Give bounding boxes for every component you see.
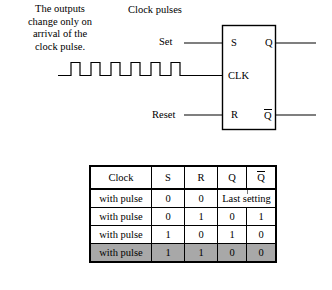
table-row: with pulse 0 0 Last setting [90, 189, 276, 208]
clock-pulse-train [58, 63, 223, 76]
cell-qbar: 1 [247, 208, 277, 226]
cell-qbar: 0 [247, 226, 277, 244]
r-pin-label: R [231, 109, 238, 120]
qbar-overbar-glyph: Q [264, 109, 272, 121]
cell-s: 0 [152, 189, 185, 208]
cell-s: 1 [152, 226, 185, 244]
cell-clock: with pulse [90, 189, 152, 208]
clock-waveform-path [58, 63, 223, 76]
cell-r: 1 [185, 244, 218, 263]
cell-r: 0 [185, 189, 218, 208]
qbar-pin-label: Q [264, 109, 272, 121]
merge-tick [247, 190, 248, 194]
cell-r: 1 [185, 208, 218, 226]
figure-canvas: The outputs change only on arrival of th… [0, 0, 332, 290]
table-row: with pulse 1 0 1 0 [90, 226, 276, 244]
set-label: Set [159, 36, 172, 47]
column-header-qbar-glyph: Q [257, 171, 265, 184]
cell-last-setting: Last setting [218, 189, 277, 208]
column-header-q: Q [218, 166, 247, 189]
flip-flop-schematic [0, 0, 332, 150]
column-header-qbar: Q [247, 166, 277, 189]
truth-table-head: Clock S R Q Q [90, 166, 276, 189]
cell-r: 0 [185, 226, 218, 244]
cell-q: 1 [218, 226, 247, 244]
cell-qbar: 0 [247, 244, 277, 263]
table-row-highlighted: with pulse 1 1 0 0 [90, 244, 276, 263]
clk-pin-label: CLK [228, 70, 249, 81]
cell-s: 1 [152, 244, 185, 263]
reset-label: Reset [152, 109, 175, 120]
cell-clock: with pulse [90, 226, 152, 244]
column-header-r: R [185, 166, 218, 189]
cell-last-setting-text: Last setting [222, 193, 271, 204]
cell-clock: with pulse [90, 244, 152, 263]
s-pin-label: S [231, 37, 237, 48]
column-header-clock: Clock [90, 166, 152, 189]
q-pin-label: Q [265, 37, 273, 48]
table-row: with pulse 0 1 0 1 [90, 208, 276, 226]
truth-table-header-row: Clock S R Q Q [90, 166, 276, 189]
cell-q: 0 [218, 244, 247, 263]
cell-s: 0 [152, 208, 185, 226]
truth-table: Clock S R Q Q with pulse 0 0 Last settin… [89, 165, 277, 263]
cell-clock: with pulse [90, 208, 152, 226]
truth-table-body: with pulse 0 0 Last setting with pulse 0… [90, 189, 276, 262]
column-header-s: S [152, 166, 185, 189]
cell-q: 0 [218, 208, 247, 226]
